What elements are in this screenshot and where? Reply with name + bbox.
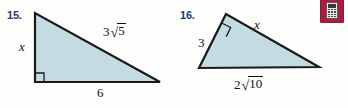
label-16-base: 2√10 (234, 77, 263, 93)
triangle-15-shape (35, 13, 160, 82)
label-15-leg-x: x (19, 40, 25, 53)
calculator-icon (320, 0, 344, 23)
radical-expression: √10 (241, 77, 264, 93)
triangle-15 (35, 13, 160, 82)
calculator-screen (328, 4, 336, 8)
worksheet-figure-panel: 15. 16. x 3√5 6 3 x 2√10 (0, 0, 348, 108)
triangles-drawing (0, 0, 348, 108)
label-16-hypotenuse-x: x (254, 18, 260, 31)
calculator-body (326, 2, 338, 19)
label-15-hypotenuse: 3√5 (103, 24, 126, 40)
radical-expression: √5 (110, 24, 126, 40)
label-15-base: 6 (97, 86, 104, 99)
label-16-side-3: 3 (198, 36, 205, 49)
calculator-keys (328, 9, 336, 17)
